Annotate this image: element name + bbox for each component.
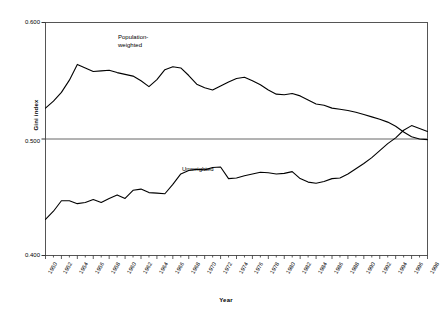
chart-figure: 0.600 0.500 0.400 Gini index Year 195019…: [0, 0, 446, 314]
series-label-pop-line2: weighted: [118, 42, 148, 50]
x-axis-ticks: [46, 256, 428, 260]
y-axis-title: Gini index: [33, 85, 39, 145]
series-label-population-weighted: Population- weighted: [118, 34, 148, 49]
y-tick-label-0400: 0.400: [8, 252, 40, 258]
y-axis-ticks: [42, 23, 46, 256]
y-tick-label-0600: 0.600: [8, 19, 40, 25]
series-label-pop-line1: Population-: [118, 34, 148, 42]
series-label-unweighted: Unweighted: [182, 166, 214, 174]
